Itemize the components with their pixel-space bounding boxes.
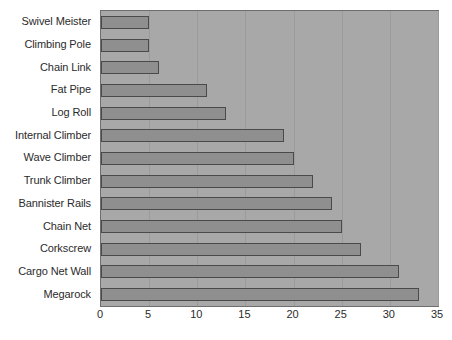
bar[interactable]	[101, 61, 159, 74]
bar-row	[101, 215, 438, 238]
category-label: Fat Pipe	[0, 78, 96, 101]
bar-chart: Swivel MeisterClimbing PoleChain LinkFat…	[0, 0, 452, 340]
bar-row	[101, 283, 438, 306]
category-label: Bannister Rails	[0, 192, 96, 215]
value-tick-label: 5	[145, 308, 151, 320]
category-label: Wave Climber	[0, 146, 96, 169]
bar[interactable]	[101, 175, 313, 188]
category-label: Chain Link	[0, 55, 96, 78]
value-tick-label: 10	[190, 308, 202, 320]
bar-row	[101, 11, 438, 34]
category-label: Corkscrew	[0, 237, 96, 260]
value-tick-label: 20	[286, 308, 298, 320]
category-axis-labels: Swivel MeisterClimbing PoleChain LinkFat…	[0, 10, 96, 305]
plot-area	[100, 10, 439, 307]
bar-row	[101, 147, 438, 170]
value-tick-label: 25	[335, 308, 347, 320]
category-label: Chain Net	[0, 214, 96, 237]
bar[interactable]	[101, 39, 149, 52]
category-label: Cargo Net Wall	[0, 260, 96, 283]
category-label: Megarock	[0, 282, 96, 305]
bar[interactable]	[101, 16, 149, 29]
bar-row	[101, 124, 438, 147]
bar-row	[101, 261, 438, 284]
category-label: Trunk Climber	[0, 169, 96, 192]
bar[interactable]	[101, 152, 294, 165]
bar-row	[101, 56, 438, 79]
bar-row	[101, 170, 438, 193]
value-tick-label: 15	[238, 308, 250, 320]
category-label: Climbing Pole	[0, 33, 96, 56]
bar[interactable]	[101, 197, 332, 210]
bar-row	[101, 79, 438, 102]
bar-row	[101, 193, 438, 216]
bar[interactable]	[101, 243, 361, 256]
category-label: Log Roll	[0, 101, 96, 124]
bar-row	[101, 34, 438, 57]
value-tick-label: 0	[97, 308, 103, 320]
bar[interactable]	[101, 107, 226, 120]
value-axis: 05101520253035	[100, 306, 437, 330]
value-tick-label: 30	[383, 308, 395, 320]
gridline	[438, 11, 439, 306]
bar-series	[101, 11, 438, 306]
bar[interactable]	[101, 288, 419, 301]
bar[interactable]	[101, 129, 284, 142]
bar[interactable]	[101, 220, 342, 233]
bar[interactable]	[101, 84, 207, 97]
bar-row	[101, 238, 438, 261]
category-label: Internal Climber	[0, 123, 96, 146]
bar-row	[101, 102, 438, 125]
bar[interactable]	[101, 265, 399, 278]
value-tick-label: 35	[431, 308, 443, 320]
category-label: Swivel Meister	[0, 10, 96, 33]
